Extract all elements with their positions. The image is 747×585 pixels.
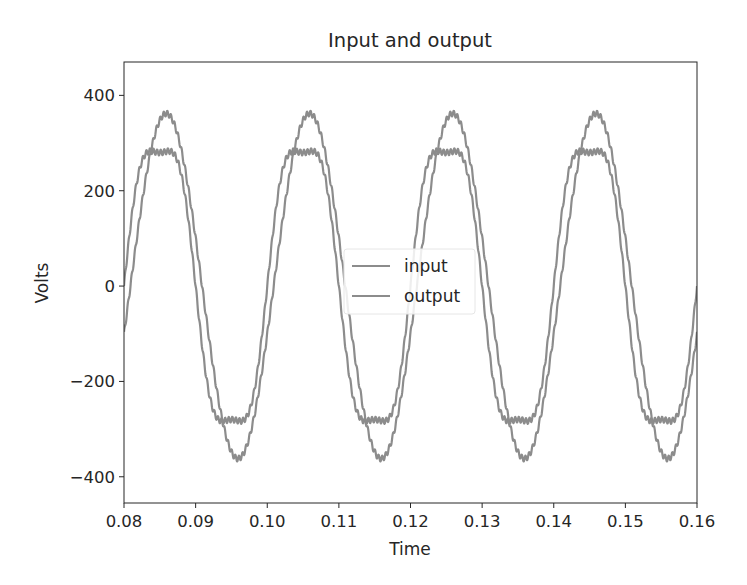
chart: Input and output 0.080.090.100.110.120.1… (0, 0, 747, 585)
x-axis: 0.080.090.100.110.120.130.140.150.16 (106, 503, 716, 531)
y-axis-label: Volts (32, 262, 52, 303)
x-tick-label: 0.16 (679, 512, 716, 531)
x-tick-label: 0.15 (607, 512, 644, 531)
y-tick-label: 0 (105, 277, 116, 296)
y-tick-label: −400 (70, 468, 115, 487)
chart-title: Input and output (328, 29, 492, 52)
x-tick-label: 0.12 (392, 512, 429, 531)
legend-label-input: input (404, 256, 448, 276)
x-tick-label: 0.08 (106, 512, 143, 531)
y-tick-label: 200 (84, 182, 116, 201)
x-tick-label: 0.13 (464, 512, 501, 531)
x-tick-label: 0.11 (321, 512, 358, 531)
x-axis-label: Time (388, 539, 431, 559)
legend: input output (344, 249, 475, 314)
y-tick-label: −200 (70, 372, 115, 391)
legend-label-output: output (404, 286, 460, 306)
x-tick-label: 0.10 (249, 512, 286, 531)
x-tick-label: 0.14 (535, 512, 572, 531)
y-tick-label: 400 (84, 86, 116, 105)
x-tick-label: 0.09 (177, 512, 214, 531)
y-axis: 4002000−200−400 (70, 86, 124, 486)
